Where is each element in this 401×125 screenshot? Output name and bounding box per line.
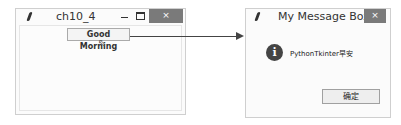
message-box-title: My Message Box [278,10,370,23]
main-window-titlebar[interactable]: ch10_4 × [16,9,185,24]
maximize-button[interactable] [136,12,145,20]
message-text: PythonTkinter早安 [290,48,353,58]
close-button[interactable]: × [149,9,183,23]
message-box-titlebar[interactable]: My Message Box × [246,9,390,24]
main-window-title: ch10_4 [56,10,96,23]
mouse-cursor-icon: ⇖ [98,38,106,48]
ok-button[interactable]: 确定 [322,89,380,104]
arrow-head-icon [236,32,244,40]
main-window: ch10_4 × [15,8,186,115]
tk-feather-icon [254,12,260,21]
message-box-close-button[interactable]: × [364,9,386,23]
tk-feather-icon [26,12,32,21]
arrow-connector [130,36,238,37]
info-icon: i [266,44,283,61]
minimize-button[interactable] [121,17,128,18]
